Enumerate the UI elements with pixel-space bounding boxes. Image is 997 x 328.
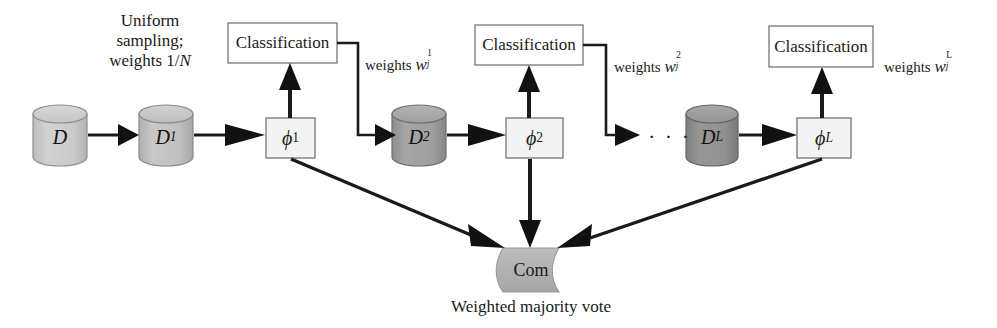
classification-box-1 <box>228 23 337 63</box>
arrow-DL-to-phiL <box>739 124 797 146</box>
classifier-box-phi1 <box>266 118 315 158</box>
arrow-phi1-to-classification <box>279 63 301 118</box>
dataset-cylinder-D1 <box>139 105 193 166</box>
weight-label-L-symbol: w <box>934 57 945 76</box>
dataset-cylinder-DL <box>686 105 738 166</box>
arrow-phi1-to-combiner <box>291 159 505 248</box>
weight-label-L-text: weights <box>884 59 931 75</box>
weight-label-1: weights w1j <box>365 55 436 75</box>
uniform-sampling-line-1: Uniform <box>109 11 191 31</box>
weight-label-1-symbol: w <box>415 55 426 74</box>
weight-label-2: weights w2j <box>614 57 685 77</box>
arrow-D1-to-phi1 <box>194 124 265 146</box>
arrow-to-ellipsis <box>615 124 640 146</box>
dataset-cylinder-D2 <box>392 105 446 166</box>
uniform-sampling-note: Uniform sampling; weights 1/N <box>109 11 191 71</box>
weight-label-1-sub: j <box>427 58 430 69</box>
dataset-cylinder-D <box>33 105 87 166</box>
weight-label-L: weights wLj <box>884 57 955 77</box>
diagram-canvas: Uniform sampling; weights 1/N D D1 D2 DL… <box>0 0 997 328</box>
classification-box-3 <box>769 26 873 67</box>
weight-label-2-symbol: w <box>664 57 675 76</box>
weight-label-L-sub: j <box>946 60 949 71</box>
arrow-phiL-to-classification <box>811 67 833 118</box>
ellipsis-indicator: · · · <box>648 124 691 150</box>
arrow-D2-to-phi2 <box>447 124 506 146</box>
weight-label-1-indices: 1j <box>427 55 436 70</box>
arrow-phi2-to-classification <box>518 65 540 118</box>
classifier-box-phiL <box>797 118 851 158</box>
classification-box-2 <box>475 25 583 65</box>
uniform-sampling-line-2: sampling; <box>109 31 191 51</box>
uniform-sampling-line-3: weights 1/N <box>109 51 191 71</box>
route-classification2-to-next <box>583 45 617 135</box>
weights-prefix: weights 1/ <box>109 51 179 70</box>
classifier-box-phi2 <box>506 118 563 158</box>
bottom-caption: Weighted majority vote <box>451 297 611 317</box>
weight-label-2-text: weights <box>614 59 661 75</box>
weight-label-1-text: weights <box>365 57 412 73</box>
arrow-D-to-D1 <box>88 124 139 146</box>
weight-label-2-indices: 2j <box>676 57 685 72</box>
combiner-shape <box>496 248 559 292</box>
sample-size-var: N <box>180 51 191 70</box>
arrow-phiL-to-combiner <box>557 159 822 248</box>
arrow-phi2-to-combiner <box>519 159 541 248</box>
weight-label-L-indices: Lj <box>946 57 955 72</box>
weight-label-2-sub: j <box>676 60 679 71</box>
